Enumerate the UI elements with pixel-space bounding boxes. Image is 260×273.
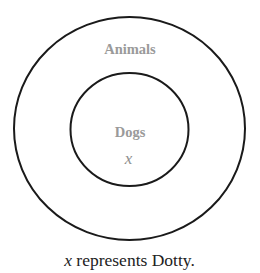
caption: x represents Dotty. [63,250,195,270]
venn-diagram: Animals Dogs x x represents Dotty. [0,0,260,273]
caption-text: represents Dotty. [72,250,195,270]
outer-set-label: Animals [104,41,156,57]
element-marker: x [124,149,133,168]
caption-variable: x [63,250,72,270]
inner-set-label: Dogs [115,124,146,140]
